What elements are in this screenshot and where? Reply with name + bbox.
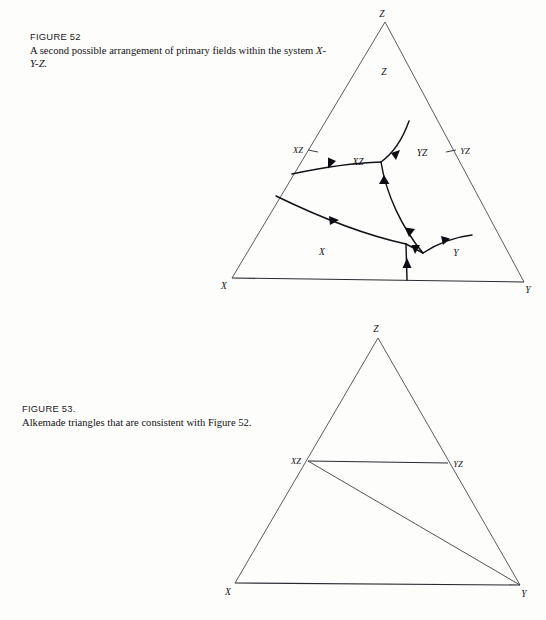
triangle-edge-right [378, 338, 520, 585]
edge-label-xz: XZ [292, 145, 303, 155]
field-label-y: Y [453, 248, 460, 258]
arrow-up-lower-link [412, 245, 421, 254]
triangle-edge-left [235, 338, 378, 583]
corner-label-y: Y [525, 285, 532, 295]
corner-label-z: Z [379, 9, 385, 19]
boundary-xz-x [276, 196, 406, 244]
triangle-edge-right [385, 22, 524, 282]
corner-label-z: Z [373, 324, 379, 334]
boundary-z-xz [292, 162, 381, 174]
alkemade-join-lines [308, 461, 520, 585]
field-label-x: X [318, 247, 326, 257]
phase-boundaries [276, 121, 472, 280]
ternary-triangle-outline [232, 22, 524, 282]
page-canvas: FIGURE 52 A second possible arrangement … [0, 0, 546, 620]
field-label-z: Z [381, 67, 387, 77]
xz-tick [308, 150, 318, 152]
arrow-up-x-y [403, 258, 412, 268]
compound-label-yz: YZ [453, 459, 463, 469]
join-line-xz-y [308, 461, 520, 585]
field-label-xz: XZ [351, 157, 364, 167]
field-label-yz: YZ [417, 148, 428, 158]
arrow-down-xz-yz [405, 228, 415, 238]
edge-label-yz: YZ [460, 146, 470, 156]
arrow-up-xz-yz [379, 175, 390, 184]
corner-label-y: Y [521, 589, 528, 599]
boundary-yz-y [423, 235, 472, 253]
triangle-edge-base [232, 278, 524, 282]
boundary-direction-arrows [328, 150, 450, 268]
figure-53-diagram: Z X Y XZ YZ [210, 320, 540, 610]
join-line-xz-yz [308, 461, 448, 463]
corner-label-x: X [224, 587, 232, 597]
compound-label-xz: XZ [290, 456, 301, 466]
corner-label-x: X [220, 281, 228, 291]
figure-52-diagram: Z X Y XZ YZ Z XZ YZ X Y [210, 8, 540, 308]
triangle-edge-base [235, 583, 520, 585]
edge-compound-ticks [308, 150, 456, 152]
